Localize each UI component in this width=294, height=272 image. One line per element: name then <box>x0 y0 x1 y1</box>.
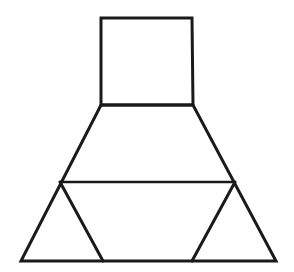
geometric-figure <box>0 0 294 272</box>
figure-canvas <box>0 0 294 272</box>
square-face <box>101 18 193 105</box>
